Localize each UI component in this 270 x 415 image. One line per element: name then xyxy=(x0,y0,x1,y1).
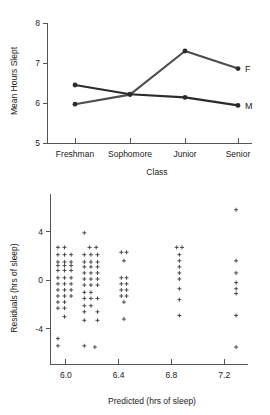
scatter-chart-point-marker xyxy=(96,310,100,314)
scatter-chart-point-marker xyxy=(56,260,60,264)
line-chart-y-tick-label: 8 xyxy=(35,18,40,28)
scatter-chart-point-marker xyxy=(234,313,238,317)
line-chart-data-point xyxy=(183,95,188,100)
residuals-scatter-plot: -404 6.06.46.87.2 Residuals (hrs of slee… xyxy=(0,190,270,415)
scatter-chart-point-marker xyxy=(82,304,86,308)
scatter-chart-point-marker xyxy=(119,288,123,292)
scatter-chart-point-marker xyxy=(63,315,67,319)
scatter-chart-point-marker xyxy=(63,253,67,257)
scatter-chart-point-marker xyxy=(89,253,93,257)
scatter-chart-point-marker xyxy=(96,265,100,269)
scatter-chart-point-marker xyxy=(234,287,238,291)
scatter-chart-y-tick-label: -4 xyxy=(35,324,43,334)
scatter-chart-point-marker xyxy=(89,265,93,269)
scatter-chart-point-marker xyxy=(69,268,73,272)
line-chart-y-tick-labels: 5678 xyxy=(35,18,40,148)
scatter-chart-point-marker xyxy=(234,292,238,296)
scatter-chart-point-marker xyxy=(89,260,93,264)
scatter-chart-point-marker xyxy=(63,294,67,298)
scatter-chart-point-marker xyxy=(177,253,181,257)
scatter-chart-point-marker xyxy=(56,294,60,298)
scatter-chart-point-marker xyxy=(125,276,129,280)
scatter-chart-point-marker xyxy=(177,277,181,281)
scatter-chart-point-marker xyxy=(56,306,60,310)
line-chart-series-labels: FM xyxy=(245,64,253,111)
scatter-chart-point-marker xyxy=(69,253,73,257)
scatter-chart-point-marker xyxy=(119,282,123,286)
scatter-chart-point-marker xyxy=(82,265,86,269)
scatter-chart-point-marker xyxy=(63,260,67,264)
scatter-chart-point-marker xyxy=(89,290,93,294)
scatter-chart-point-marker xyxy=(63,300,67,304)
scatter-chart-point-marker xyxy=(82,231,86,235)
scatter-chart-point-marker xyxy=(69,260,73,264)
scatter-chart-point-marker xyxy=(96,283,100,287)
scatter-chart-y-tick-label: 4 xyxy=(38,227,43,237)
scatter-chart-axes xyxy=(46,194,248,364)
line-chart-data-point xyxy=(128,92,133,97)
scatter-chart-point-marker xyxy=(63,245,67,249)
scatter-chart-point-marker xyxy=(56,268,60,272)
line-chart-y-tick-label: 7 xyxy=(35,58,40,68)
scatter-chart-point-marker xyxy=(56,276,60,280)
scatter-chart-point-marker xyxy=(125,294,129,298)
scatter-chart-point-marker xyxy=(82,260,86,264)
scatter-chart-x-tick-labels: 6.06.46.87.2 xyxy=(60,370,230,380)
scatter-chart-point-marker xyxy=(175,245,179,249)
scatter-chart-point-marker xyxy=(89,277,93,281)
scatter-chart-point-marker xyxy=(63,282,67,286)
scatter-chart-point-marker xyxy=(234,208,238,212)
scatter-chart-point-marker xyxy=(96,277,100,281)
line-chart-series-label-m: M xyxy=(245,101,253,111)
line-chart-y-axis-title: Mean Hours Slept xyxy=(9,46,19,115)
scatter-chart-point-marker xyxy=(122,300,126,304)
scatter-chart-point-marker xyxy=(177,271,181,275)
scatter-chart-point-marker xyxy=(177,265,181,269)
line-chart-series-label-f: F xyxy=(245,64,251,74)
scatter-chart-point-marker xyxy=(94,245,98,249)
scatter-chart-point-marker xyxy=(63,288,67,292)
scatter-chart-point-marker xyxy=(89,283,93,287)
scatter-chart-point-marker xyxy=(119,276,123,280)
scatter-chart-point-marker xyxy=(89,304,93,308)
scatter-chart-point-marker xyxy=(119,250,123,254)
line-chart-data-point xyxy=(236,66,241,71)
scatter-chart-point-marker xyxy=(125,282,129,286)
scatter-chart-point-marker xyxy=(93,345,97,349)
scatter-chart-point-marker xyxy=(63,268,67,272)
scatter-chart-point-marker xyxy=(56,245,60,249)
scatter-chart-point-marker xyxy=(63,264,67,268)
scatter-chart-x-axis-title: Predicted (hrs of sleep) xyxy=(108,396,196,406)
scatter-chart-point-marker xyxy=(82,344,86,348)
scatter-chart-canvas: -404 6.06.46.87.2 Residuals (hrs of slee… xyxy=(0,190,270,415)
scatter-chart-y-tick-labels: -404 xyxy=(35,227,43,334)
scatter-chart-point-marker xyxy=(69,276,73,280)
line-chart-x-axis-title: Class xyxy=(146,167,167,177)
scatter-chart-y-axis-title: Residuals (hrs of sleep) xyxy=(9,243,19,332)
scatter-chart-point-marker xyxy=(69,264,73,268)
line-chart-y-tick-label: 5 xyxy=(35,138,40,148)
scatter-chart-point-marker xyxy=(56,282,60,286)
line-chart-series-m xyxy=(75,85,238,105)
line-chart-category-labels: FreshmanSophomoreJuniorSenior xyxy=(56,149,251,159)
line-chart-category-label-freshman: Freshman xyxy=(56,149,95,159)
scatter-chart-x-tick-label: 6.8 xyxy=(166,370,178,380)
scatter-chart-point-marker xyxy=(56,288,60,292)
scatter-chart-point-marker xyxy=(56,300,60,304)
scatter-chart-point-marker xyxy=(69,282,73,286)
scatter-chart-point-marker xyxy=(89,271,93,275)
scatter-chart-points-group xyxy=(56,208,238,349)
line-chart-category-label-sophomore: Sophomore xyxy=(108,149,152,159)
scatter-chart-point-marker xyxy=(82,296,86,300)
scatter-chart-point-marker xyxy=(96,296,100,300)
line-chart-canvas: 5678 FreshmanSophomoreJuniorSenior FM Me… xyxy=(0,0,270,190)
scatter-chart-point-marker xyxy=(177,298,181,302)
scatter-chart-y-tick-label: 0 xyxy=(38,275,43,285)
scatter-chart-point-marker xyxy=(56,253,60,257)
line-chart-data-point xyxy=(73,102,78,107)
scatter-chart-point-marker xyxy=(96,260,100,264)
scatter-chart-point-marker xyxy=(180,245,184,249)
scatter-chart-point-marker xyxy=(177,313,181,317)
mean-hours-slept-line-chart: 5678 FreshmanSophomoreJuniorSenior FM Me… xyxy=(0,0,270,190)
scatter-chart-point-marker xyxy=(177,287,181,291)
